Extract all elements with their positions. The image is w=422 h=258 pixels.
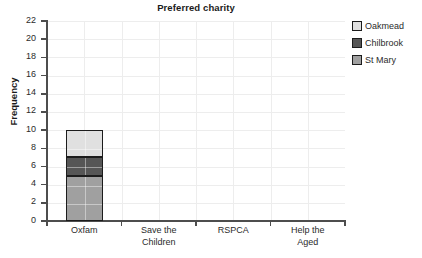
legend-item-label: Oakmead [365,21,404,31]
y-axis-tick [41,202,46,204]
y-axis-tick-label: 10 [0,125,36,134]
y-axis-tick [41,166,46,168]
y-axis-tick [41,111,46,113]
y-axis-tick-label: 12 [0,106,36,115]
bar-stack[interactable] [66,21,103,221]
x-axis-category-label: Save theChildren [122,225,197,248]
y-axis-tick-label: 2 [0,197,36,206]
y-axis-tick-label: 6 [0,161,36,170]
gridline-horizontal [67,186,102,187]
y-axis-tick [41,57,46,59]
y-axis-tick-label: 18 [0,52,36,61]
legend-item-chilbrook[interactable]: Chilbrook [352,34,422,51]
gridline-vertical [233,21,234,221]
legend-item-label: Chilbrook [365,38,403,48]
y-axis-tick-label: 16 [0,70,36,79]
gridline-vertical [85,131,86,156]
gridline-horizontal [67,149,102,150]
gridline-vertical [271,21,272,221]
legend-item-oakmead[interactable]: Oakmead [352,17,422,34]
y-axis-tick [41,148,46,150]
gridline-horizontal [67,204,102,205]
y-axis-tick-label: 4 [0,179,36,188]
bar-segment-chilbrook[interactable] [66,157,103,175]
gridline-horizontal [67,167,102,168]
gridline-vertical [159,21,160,221]
chart-container: Preferred charity Frequency 024681012141… [0,0,422,258]
y-axis-tick [41,184,46,186]
legend-item-st-mary[interactable]: St Mary [352,51,422,68]
gridline-vertical [308,21,309,221]
y-axis-tick [41,129,46,131]
y-axis-tick-label: 14 [0,88,36,97]
y-axis-tick [41,75,46,77]
gridline-vertical [85,158,86,174]
chart-legend: OakmeadChilbrookSt Mary [352,17,422,68]
y-axis-tick-label: 20 [0,34,36,43]
legend-swatch-icon [352,55,362,65]
y-axis-tick [41,20,46,22]
legend-swatch-icon [352,38,362,48]
x-axis-category-label: Oxfam [47,225,122,237]
gridline-vertical [85,177,86,221]
gridline-vertical [122,21,123,221]
bar-segment-st-mary[interactable] [66,176,103,222]
y-axis-tick-label: 0 [0,216,36,225]
legend-swatch-icon [352,21,362,31]
chart-title: Preferred charity [47,2,345,13]
x-axis-category-label: Help theAged [271,225,346,248]
y-axis-tick [41,38,46,40]
y-axis-tick [41,93,46,95]
y-axis-line [46,20,48,222]
y-axis-tick [41,220,46,222]
legend-item-label: St Mary [365,55,396,65]
y-axis-tick-label: 22 [0,16,36,25]
y-axis-tick-label: 8 [0,143,36,152]
gridline-vertical [196,21,197,221]
x-axis-category-label: RSPCA [196,225,271,237]
bar-segment-oakmead[interactable] [66,130,103,157]
